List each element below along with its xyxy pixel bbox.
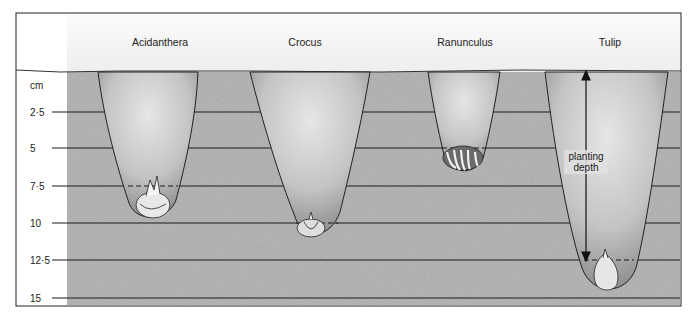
annotation-line-1: planting bbox=[566, 151, 606, 162]
plant-label-crocus: Crocus bbox=[288, 36, 321, 48]
depth-label-12-5: 12·5 bbox=[30, 255, 50, 266]
planting-depth-annotation: planting depth bbox=[564, 150, 608, 174]
depth-label-2-5: 2·5 bbox=[30, 107, 44, 118]
annotation-line-2: depth bbox=[566, 162, 606, 173]
tuberous-root-claw-icon bbox=[443, 146, 483, 170]
plant-label-acidanthera: Acidanthera bbox=[132, 36, 188, 48]
depth-label-7-5: 7·5 bbox=[30, 181, 44, 192]
depth-label-5: 5 bbox=[30, 143, 36, 154]
depth-label-10: 10 bbox=[30, 218, 41, 229]
unit-label: cm bbox=[30, 80, 43, 91]
plant-label-tulip: Tulip bbox=[599, 36, 621, 48]
plant-label-ranunculus: Ranunculus bbox=[437, 36, 492, 48]
depth-label-15: 15 bbox=[30, 293, 41, 304]
planting-depth-diagram: cm 2·5 5 7·5 10 12·5 15 Acidanthera Croc… bbox=[0, 0, 698, 318]
